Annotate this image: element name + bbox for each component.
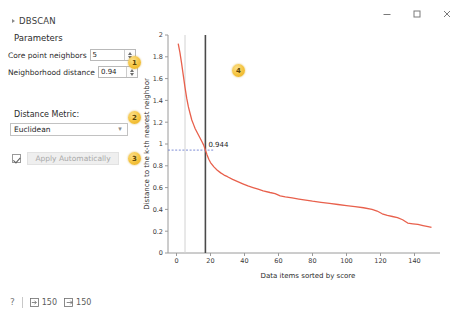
output-count-value: 150: [76, 298, 91, 307]
k-distance-chart: 00.20.40.60.811.21.41.61.82 020406080100…: [140, 28, 464, 285]
svg-text:120: 120: [374, 257, 386, 265]
x-axis-title: Data items sorted by score: [261, 272, 356, 280]
apply-automatically-checkbox[interactable]: [12, 154, 21, 163]
minimize-button[interactable]: [374, 6, 400, 22]
input-count-item: 150: [30, 298, 57, 307]
callout-badge-4: 4: [232, 64, 245, 77]
distance-metric-select[interactable]: Euclidean ▾: [10, 123, 128, 136]
help-icon[interactable]: ?: [10, 297, 15, 307]
svg-text:60: 60: [274, 257, 282, 265]
chevron-right-icon: [12, 19, 15, 23]
svg-text:20: 20: [206, 257, 214, 265]
status-bar: ? 150 150: [0, 285, 464, 319]
window-content: DBSCAN Parameters Core point neighbors 5…: [0, 28, 464, 285]
distance-metric-value: Euclidean: [14, 125, 113, 134]
svg-text:40: 40: [240, 257, 248, 265]
input-count-value: 150: [42, 298, 57, 307]
k-distance-curve: [178, 44, 431, 228]
x-tick-labels: 020406080100120140: [174, 257, 420, 265]
svg-text:2: 2: [159, 31, 163, 39]
svg-text:0.8: 0.8: [153, 162, 163, 170]
threshold-annotation: 0.944: [208, 141, 229, 149]
dbscan-window: DBSCAN Parameters Core point neighbors 5…: [0, 0, 464, 319]
y-axis-title: Distance to the k-th nearest neighbor: [143, 78, 151, 210]
svg-text:80: 80: [308, 257, 316, 265]
maximize-button[interactable]: [404, 6, 430, 22]
apply-button[interactable]: Apply Automatically: [27, 152, 119, 165]
svg-text:0.6: 0.6: [153, 184, 163, 192]
arrow-up-icon: [128, 52, 132, 55]
arrow-down-icon: [130, 73, 134, 76]
svg-text:100: 100: [340, 257, 352, 265]
chart-svg: 00.20.40.60.811.21.41.61.82 020406080100…: [140, 28, 464, 285]
svg-text:1: 1: [159, 140, 163, 148]
svg-text:0.4: 0.4: [153, 206, 163, 214]
output-arrow-icon: [64, 298, 73, 307]
callout-badge-3: 3: [128, 152, 141, 165]
svg-text:1.8: 1.8: [153, 53, 163, 61]
output-count-item: 150: [64, 298, 91, 307]
section-header-label: DBSCAN: [19, 16, 56, 26]
distance-metric-label: Distance Metric:: [14, 110, 79, 119]
callout-badge-1: 1: [128, 56, 141, 69]
neighborhood-distance-label: Neighborhood distance: [8, 68, 95, 77]
core-point-neighbors-label: Core point neighbors: [8, 51, 87, 60]
close-button[interactable]: [434, 6, 460, 22]
svg-text:0: 0: [159, 249, 163, 257]
parameters-panel: DBSCAN Parameters Core point neighbors 5…: [0, 28, 140, 285]
window-titlebar: [0, 0, 464, 28]
y-tick-labels: 00.20.40.60.811.21.41.61.82: [153, 31, 163, 257]
svg-text:1.6: 1.6: [153, 75, 163, 83]
svg-text:1.2: 1.2: [153, 119, 163, 127]
apply-automatically-row: Apply Automatically: [12, 152, 119, 165]
core-point-neighbors-value: 5: [91, 51, 124, 59]
status-divider: [22, 297, 23, 308]
chart-tickmarks: [165, 35, 415, 256]
svg-text:1.4: 1.4: [153, 97, 163, 105]
neighborhood-distance-row: Neighborhood distance 0.94: [8, 66, 138, 78]
svg-text:140: 140: [408, 257, 420, 265]
core-point-neighbors-row: Core point neighbors 5: [8, 49, 136, 61]
neighborhood-distance-value: 0.94: [99, 68, 126, 76]
callout-badge-2: 2: [128, 111, 141, 124]
input-arrow-icon: [30, 298, 39, 307]
svg-text:0.2: 0.2: [153, 228, 163, 236]
section-header-dbscan[interactable]: DBSCAN: [12, 16, 56, 26]
parameters-group-title: Parameters: [14, 33, 63, 43]
svg-text:0: 0: [174, 257, 178, 265]
chevron-down-icon: ▾: [113, 126, 127, 133]
